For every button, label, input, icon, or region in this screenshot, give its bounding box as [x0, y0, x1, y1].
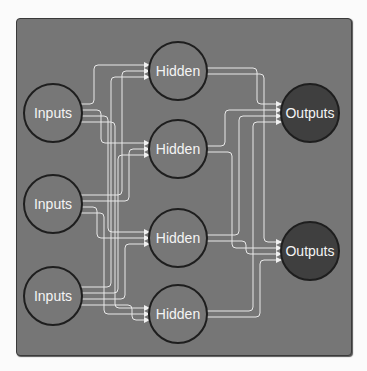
node-label: Hidden — [156, 230, 200, 246]
node-hidden-h1: Hidden — [149, 42, 207, 100]
edge-h1-out2 — [205, 74, 281, 242]
node-output-out2: Outputs — [281, 222, 339, 280]
node-hidden-h4: Hidden — [149, 285, 207, 343]
node-label: Inputs — [34, 105, 72, 121]
neural-network-diagram: InputsInputsInputsHiddenHiddenHiddenHidd… — [0, 0, 367, 371]
node-hidden-h2: Hidden — [149, 120, 207, 178]
node-hidden-h3: Hidden — [149, 209, 207, 267]
edge-h4-out1 — [205, 122, 281, 311]
edge-h4-out2 — [205, 260, 281, 317]
edge-h3-out1 — [205, 116, 281, 235]
edge-in3-h4 — [80, 305, 149, 320]
node-label: Outputs — [285, 243, 334, 259]
node-label: Hidden — [156, 141, 200, 157]
edge-h2-out1 — [205, 110, 281, 146]
node-input-in1: Inputs — [24, 84, 82, 142]
edge-h1-out1 — [205, 68, 281, 104]
connection-edges — [80, 65, 281, 320]
edge-h2-out2 — [205, 152, 281, 248]
node-label: Hidden — [156, 63, 200, 79]
node-label: Hidden — [156, 306, 200, 322]
node-input-in2: Inputs — [24, 175, 82, 233]
node-output-out1: Outputs — [281, 84, 339, 142]
node-input-in3: Inputs — [24, 267, 82, 325]
node-label: Outputs — [285, 105, 334, 121]
node-label: Inputs — [34, 196, 72, 212]
node-label: Inputs — [34, 288, 72, 304]
network-nodes: InputsInputsInputsHiddenHiddenHiddenHidd… — [24, 42, 339, 343]
edge-in1-h4 — [80, 122, 149, 308]
